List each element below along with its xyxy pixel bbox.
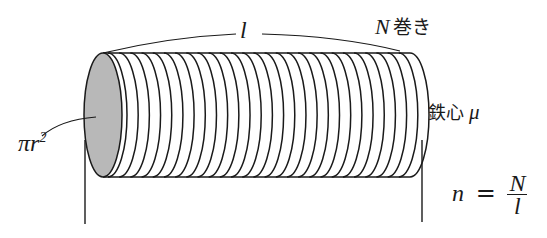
core-text: 鉄心 — [428, 102, 464, 123]
core-end-face — [84, 53, 122, 177]
formula-lhs: n — [452, 180, 464, 206]
length-label: l — [240, 17, 247, 44]
turns-text: 巻き — [393, 16, 431, 38]
turn-density-formula: n = N l — [452, 172, 527, 217]
formula-numerator: N — [507, 172, 527, 195]
coil-windings — [108, 53, 429, 177]
turns-var: N — [375, 14, 390, 39]
turns-label: N巻き — [375, 12, 431, 40]
formula-fraction: N l — [507, 172, 527, 217]
formula-eq: = — [476, 179, 496, 207]
area-exp: 2 — [39, 130, 46, 145]
length-brace — [103, 34, 400, 53]
core-mu: μ — [469, 100, 480, 124]
area-label: πr2 — [18, 130, 46, 157]
core-label: 鉄心μ — [428, 98, 480, 125]
area-expr: πr — [18, 130, 39, 156]
formula-denominator: l — [514, 195, 521, 217]
